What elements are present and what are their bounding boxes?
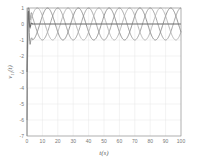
x-tick-label: 80 [147, 138, 153, 144]
x-axis-label: t(s) [99, 149, 109, 157]
y-tick-label: -6 [20, 117, 25, 123]
x-tick-label: 40 [86, 138, 92, 144]
x-tick-label: 90 [163, 138, 169, 144]
x-tick-label: 100 [177, 138, 186, 144]
x-tick-label: 50 [101, 138, 107, 144]
y-tick-label: -3 [20, 69, 25, 75]
x-tick-label: 60 [117, 138, 123, 144]
y-tick-label: -2 [20, 53, 25, 59]
x-axis-ticks: 0102030405060708090100 [26, 138, 186, 144]
x-tick-label: 20 [55, 138, 61, 144]
y-tick-label: -4 [20, 85, 25, 91]
grid [27, 8, 181, 136]
y-tick-label: 0 [21, 21, 24, 27]
y-tick-label: -1 [20, 37, 25, 43]
x-tick-label: 30 [70, 138, 76, 144]
y-axis-label: v1i(t) [6, 65, 15, 79]
y-tick-label: -5 [20, 101, 25, 107]
x-tick-label: 70 [132, 138, 138, 144]
y-tick-label: -7 [20, 133, 25, 139]
chart: 0102030405060708090100 10-1-2-3-4-5-6-7 … [0, 0, 200, 162]
x-tick-label: 10 [40, 138, 46, 144]
y-axis-ticks: 10-1-2-3-4-5-6-7 [20, 5, 25, 139]
x-tick-label: 0 [26, 138, 29, 144]
y-tick-label: 1 [21, 5, 24, 11]
